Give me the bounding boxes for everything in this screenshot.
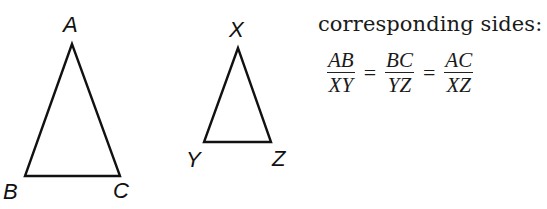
- vertex-label-x: X: [229, 19, 244, 41]
- triangle-abc: [25, 44, 120, 176]
- vertex-label-b: B: [3, 181, 18, 203]
- caption-text: corresponding sides:: [318, 12, 542, 36]
- ratio-ac-xz: AC XZ: [444, 49, 473, 96]
- denominator: YZ: [387, 74, 412, 96]
- ratio-ab-xy: AB XY: [327, 49, 355, 96]
- vertex-label-y: Y: [186, 149, 201, 171]
- numerator: BC: [385, 49, 414, 71]
- numerator: AB: [327, 49, 355, 71]
- denominator: XY: [328, 74, 355, 96]
- equals-sign: =: [423, 60, 435, 86]
- ratio-bc-yz: BC YZ: [385, 49, 414, 96]
- vertex-label-a: A: [63, 14, 78, 36]
- vertex-label-z: Z: [272, 148, 285, 170]
- proportion-equation: AB XY = BC YZ = AC XZ: [327, 49, 473, 96]
- equals-sign: =: [364, 60, 376, 86]
- numerator: AC: [444, 49, 473, 71]
- denominator: XZ: [446, 74, 473, 96]
- triangle-xyz: [204, 48, 271, 142]
- vertex-label-c: C: [113, 180, 129, 202]
